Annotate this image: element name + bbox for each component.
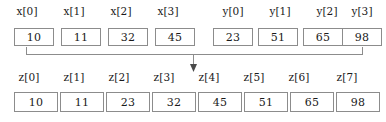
merge-diagram: x[0] x[1] x[2] x[3] 10 11 32 45 y[0] y[1… [0, 0, 386, 122]
array-x-label-1: x[1] [57, 6, 91, 17]
array-y-cell-1: 51 [258, 28, 298, 46]
array-z-label-4: z[4] [192, 72, 226, 83]
array-z-label-1: z[1] [57, 72, 91, 83]
array-y-cell-2: 65 [303, 28, 343, 46]
array-z-label-2: z[2] [102, 72, 136, 83]
array-y-cell-0: 23 [213, 28, 253, 46]
array-x-cell-0: 10 [14, 28, 54, 46]
arrow-down-icon [190, 64, 197, 72]
array-z-label-7: z[7] [330, 72, 364, 83]
array-z-cell-0: 10 [14, 92, 58, 112]
array-z-cell-4: 45 [198, 92, 242, 112]
array-z-cell-3: 32 [152, 92, 196, 112]
array-z-label-6: z[6] [282, 72, 316, 83]
array-y-label-2: y[2] [310, 6, 344, 17]
array-x-cell-1: 11 [61, 28, 101, 46]
array-y-label-1: y[1] [263, 6, 297, 17]
array-z-cell-1: 11 [60, 92, 104, 112]
array-y-label-0: y[0] [216, 6, 250, 17]
array-z-cell-6: 65 [290, 92, 334, 112]
array-y-cell-3: 98 [342, 28, 382, 46]
array-x-label-2: x[2] [104, 6, 138, 17]
array-z-label-5: z[5] [237, 72, 271, 83]
array-x-label-0: x[0] [10, 6, 44, 17]
array-z-label-3: z[3] [147, 72, 181, 83]
array-z-cell-7: 98 [336, 92, 380, 112]
array-x-cell-2: 32 [108, 28, 148, 46]
array-z-cell-2: 23 [106, 92, 150, 112]
array-z-label-0: z[0] [12, 72, 46, 83]
array-y-label-3: y[3] [345, 6, 379, 17]
array-z-cell-5: 51 [244, 92, 288, 112]
array-x-label-3: x[3] [151, 6, 185, 17]
array-x-cell-3: 45 [155, 28, 195, 46]
